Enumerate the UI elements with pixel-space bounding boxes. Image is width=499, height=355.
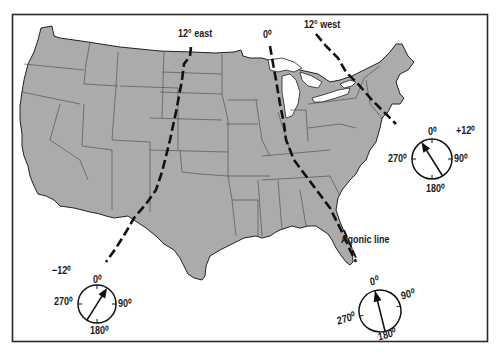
declination-label-west: −12⁰ xyxy=(52,265,71,276)
map-canvas xyxy=(0,0,499,355)
declination-label-east: +12⁰ xyxy=(456,125,475,136)
compass-east-north: 0⁰ xyxy=(428,126,436,137)
compass-west-south: 180⁰ xyxy=(90,325,108,336)
declination-map-figure: 12° east 0⁰ 12° west Agonic line −12⁰ 0⁰… xyxy=(0,0,499,355)
compass-east xyxy=(412,139,452,179)
label-12-east: 12° east xyxy=(178,28,212,39)
label-agonic-line: Agonic line xyxy=(341,234,390,245)
label-12-west: 12° west xyxy=(304,19,340,30)
compass-east-east: 90⁰ xyxy=(454,153,467,164)
compass-west xyxy=(78,285,116,323)
compass-east-south: 180⁰ xyxy=(426,183,444,194)
compass-west-east: 90⁰ xyxy=(118,298,131,309)
compass-east-west: 270⁰ xyxy=(388,153,406,164)
compass-west-north: 0⁰ xyxy=(93,274,101,285)
compass-west-west: 270⁰ xyxy=(54,296,72,307)
label-agonic-0: 0⁰ xyxy=(263,29,271,40)
